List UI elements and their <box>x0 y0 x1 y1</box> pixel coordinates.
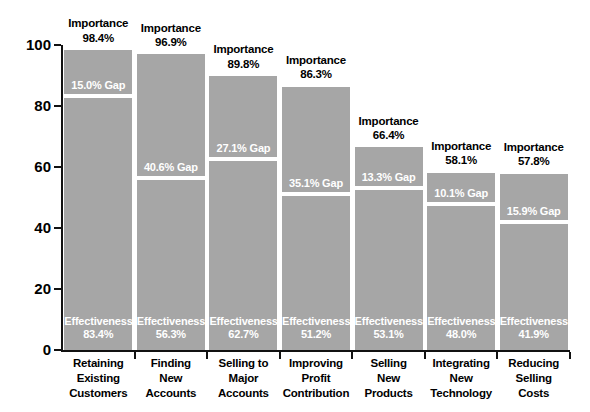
effectiveness-title: Effectiveness <box>500 315 568 329</box>
gap-divider-line <box>282 192 350 196</box>
bar[interactable]: 13.3% GapEffectiveness53.1% <box>355 147 423 350</box>
y-axis-tick-mark <box>54 166 61 168</box>
gap-label: 35.1% Gap <box>282 178 350 189</box>
y-axis-tick-label: 60 <box>34 159 51 174</box>
bar-group[interactable]: 15.9% GapEffectiveness41.9%Importance57.… <box>500 45 568 350</box>
effectiveness-title: Effectiveness <box>64 315 132 329</box>
importance-title: Importance <box>272 53 360 67</box>
gap-divider-line <box>500 220 568 224</box>
effectiveness-title: Effectiveness <box>282 315 350 329</box>
y-axis-tick-label: 100 <box>26 37 51 52</box>
bar-group[interactable]: 13.3% GapEffectiveness53.1%Importance66.… <box>355 45 423 350</box>
category-label-line: Selling <box>491 371 576 386</box>
effectiveness-value: 41.9% <box>500 328 568 342</box>
importance-value: 86.3% <box>272 67 360 81</box>
y-axis-tick-mark <box>54 288 61 290</box>
gap-divider-line <box>427 202 495 206</box>
category-label-line: Reducing <box>491 356 576 371</box>
gap-label: 27.1% Gap <box>209 143 277 154</box>
gap-divider-line <box>64 94 132 98</box>
effectiveness-value: 62.7% <box>209 328 277 342</box>
y-axis-tick-label: 0 <box>43 342 51 357</box>
effectiveness-title: Effectiveness <box>137 315 205 329</box>
category-label-line: Costs <box>491 386 576 401</box>
y-axis-tick-label: 20 <box>34 281 51 296</box>
bar-group[interactable]: 15.0% GapEffectiveness83.4%Importance98.… <box>64 45 132 350</box>
effectiveness-label: Effectiveness62.7% <box>209 315 277 343</box>
effectiveness-label: Effectiveness51.2% <box>282 315 350 343</box>
gap-divider-line <box>137 176 205 180</box>
importance-value: 57.8% <box>490 154 578 168</box>
gap-label: 15.0% Gap <box>64 80 132 91</box>
effectiveness-value: 83.4% <box>64 328 132 342</box>
importance-title: Importance <box>345 114 433 128</box>
effectiveness-value: 48.0% <box>427 328 495 342</box>
bar[interactable]: 40.6% GapEffectiveness56.3% <box>137 54 205 350</box>
gap-label: 40.6% Gap <box>137 162 205 173</box>
importance-title: Importance <box>127 21 215 35</box>
plot-area: 15.0% GapEffectiveness83.4%Importance98.… <box>62 45 570 350</box>
effectiveness-label: Effectiveness48.0% <box>427 315 495 343</box>
effectiveness-label: Effectiveness83.4% <box>64 315 132 343</box>
gap-divider-line <box>355 186 423 190</box>
effectiveness-value: 53.1% <box>355 328 423 342</box>
bar-group[interactable]: 27.1% GapEffectiveness62.7%Importance89.… <box>209 45 277 350</box>
y-axis-tick-label: 40 <box>34 220 51 235</box>
y-axis-tick-mark <box>54 105 61 107</box>
gap-label: 10.1% Gap <box>427 188 495 199</box>
importance-label: Importance57.8% <box>490 140 578 169</box>
effectiveness-title: Effectiveness <box>209 315 277 329</box>
effectiveness-label: Effectiveness56.3% <box>137 315 205 343</box>
effectiveness-title: Effectiveness <box>427 315 495 329</box>
importance-effectiveness-gap-chart: 020406080100 15.0% GapEffectiveness83.4%… <box>0 0 590 412</box>
bar[interactable]: 15.0% GapEffectiveness83.4% <box>64 50 132 350</box>
effectiveness-value: 51.2% <box>282 328 350 342</box>
y-axis-tick-label: 80 <box>34 98 51 113</box>
y-axis-tick-mark <box>54 227 61 229</box>
gap-divider-line <box>209 157 277 161</box>
y-axis-tick-mark <box>54 349 61 351</box>
effectiveness-label: Effectiveness53.1% <box>355 315 423 343</box>
bar-group[interactable]: 35.1% GapEffectiveness51.2%Importance86.… <box>282 45 350 350</box>
bar[interactable]: 35.1% GapEffectiveness51.2% <box>282 87 350 350</box>
importance-label: Importance86.3% <box>272 53 360 82</box>
effectiveness-label: Effectiveness41.9% <box>500 315 568 343</box>
bar[interactable]: 10.1% GapEffectiveness48.0% <box>427 173 495 350</box>
bar-group[interactable]: 40.6% GapEffectiveness56.3%Importance96.… <box>137 45 205 350</box>
importance-title: Importance <box>490 140 578 154</box>
gap-label: 15.9% Gap <box>500 206 568 217</box>
gap-label: 13.3% Gap <box>355 172 423 183</box>
x-axis-line <box>61 350 570 352</box>
bar-group[interactable]: 10.1% GapEffectiveness48.0%Importance58.… <box>427 45 495 350</box>
category-label: ReducingSellingCosts <box>491 356 576 401</box>
bar[interactable]: 15.9% GapEffectiveness41.9% <box>500 174 568 350</box>
bar[interactable]: 27.1% GapEffectiveness62.7% <box>209 76 277 350</box>
effectiveness-value: 56.3% <box>137 328 205 342</box>
effectiveness-title: Effectiveness <box>355 315 423 329</box>
